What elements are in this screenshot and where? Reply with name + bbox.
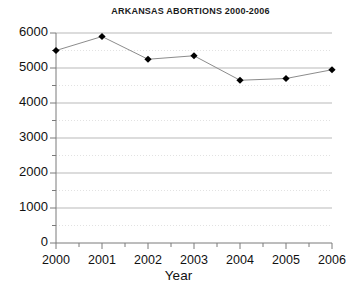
y-axis-tick-label: 4000 [19,94,48,109]
plot-area [0,0,357,293]
x-axis-ticks [56,243,332,249]
y-axis-tick-label: 5000 [19,59,48,74]
y-axis-tick-label: 0 [41,234,48,249]
data-point-markers [52,33,335,84]
y-axis-tick-label: 6000 [19,24,48,39]
y-axis-tick-label: 2000 [19,164,48,179]
y-axis-ticks [50,33,56,243]
x-axis-title: Year [0,268,357,283]
y-axis-tick-label: 1000 [19,199,48,214]
chart-container: ARKANSAS ABORTIONS 2000-2006 01000200030… [0,0,357,293]
y-axis-tick-label: 3000 [19,129,48,144]
x-axis-tick-label: 2006 [302,253,357,267]
